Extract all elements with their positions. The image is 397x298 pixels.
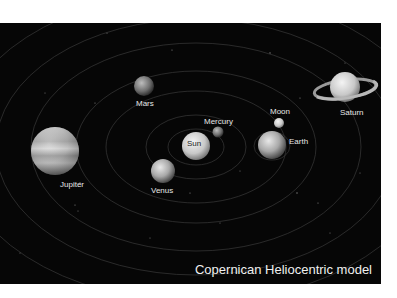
mars-icon [134,76,154,96]
moon-label: Moon [270,108,290,116]
jupiter-label: Jupiter [60,181,84,189]
mercury-icon [213,127,224,138]
earth-icon [258,131,286,159]
venus-label: Venus [151,187,173,195]
saturn-icon [313,72,378,102]
orbits-and-planets [0,23,381,284]
jupiter-icon [31,127,79,175]
diagram-title: Copernican Heliocentric model [195,263,372,276]
mercury-label: Mercury [204,118,233,126]
saturn-label: Saturn [340,109,364,117]
mars-label: Mars [136,100,154,108]
earth-label: Earth [289,138,308,146]
solar-system-diagram: Sun Mercury Venus Earth Moon Mars Jupite… [0,23,381,284]
moon-icon [274,118,284,128]
sun-label: Sun [187,140,201,148]
venus-icon [151,159,175,183]
